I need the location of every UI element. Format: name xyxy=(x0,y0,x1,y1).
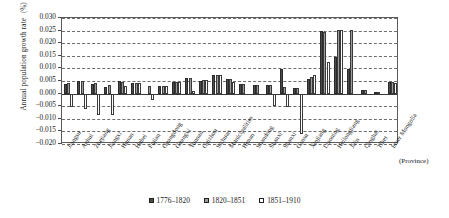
bar xyxy=(178,82,181,94)
bar xyxy=(70,94,73,107)
bar xyxy=(394,83,397,94)
bar-group xyxy=(62,18,75,142)
bar xyxy=(205,80,208,93)
plot-area xyxy=(61,17,398,143)
bar xyxy=(97,94,100,115)
y-tick-label: 0.005 xyxy=(16,76,56,83)
bar-group xyxy=(291,18,304,142)
y-tick-label: 0.025 xyxy=(16,26,56,33)
bar-group xyxy=(75,18,88,142)
bar-group xyxy=(143,18,156,142)
gridline xyxy=(62,144,397,145)
bar xyxy=(273,94,276,106)
bar xyxy=(148,86,151,94)
bar-group xyxy=(183,18,196,142)
bar-group xyxy=(116,18,129,142)
bar-group xyxy=(264,18,277,142)
legend-swatch-icon xyxy=(259,198,264,203)
bar xyxy=(192,91,195,94)
bar xyxy=(300,94,303,135)
legend-swatch-icon xyxy=(149,198,154,203)
bar-group xyxy=(386,18,399,142)
bar-group xyxy=(237,18,250,142)
bar xyxy=(242,84,245,93)
bar-group xyxy=(89,18,102,142)
legend-label: 1776–1820 xyxy=(157,196,190,205)
bar-group xyxy=(129,18,142,142)
bar xyxy=(286,94,289,108)
y-tick-label: 0.030 xyxy=(16,13,56,20)
bar xyxy=(81,81,84,94)
y-tick-label: −0.010 xyxy=(16,114,56,121)
bar xyxy=(138,83,141,94)
chart-legend: 1776–18201820–18511851–1910 xyxy=(0,196,449,205)
bar xyxy=(67,83,70,94)
bar-group xyxy=(170,18,183,142)
bar-groups xyxy=(62,18,397,142)
x-axis-note: (Province) xyxy=(399,157,429,165)
bar xyxy=(84,94,87,110)
y-tick-label: −0.015 xyxy=(16,127,56,134)
bar-group xyxy=(251,18,264,142)
bar-group xyxy=(197,18,210,142)
bar xyxy=(124,86,127,94)
y-tick-label: 0.015 xyxy=(16,51,56,58)
y-tick-label: 0.010 xyxy=(16,64,56,71)
bar-group xyxy=(359,18,372,142)
legend-item: 1820–1851 xyxy=(204,196,245,205)
legend-item: 1776–1820 xyxy=(149,196,190,205)
bar xyxy=(313,75,316,94)
legend-label: 1851–1910 xyxy=(267,196,300,205)
bar xyxy=(151,94,154,100)
bar xyxy=(108,85,111,93)
y-tick-label: −0.005 xyxy=(16,102,56,109)
population-growth-chart: Annual population growth rate（%） 0.0300.… xyxy=(0,0,449,218)
legend-swatch-icon xyxy=(204,198,209,203)
bar-group xyxy=(278,18,291,142)
legend-item: 1851–1910 xyxy=(259,196,300,205)
bar-group xyxy=(156,18,169,142)
bar-group xyxy=(210,18,223,142)
legend-label: 1820–1851 xyxy=(212,196,245,205)
bar-group xyxy=(332,18,345,142)
bar-group xyxy=(345,18,358,142)
bar xyxy=(256,85,259,93)
bar xyxy=(340,30,343,94)
y-tick-label: 0.020 xyxy=(16,39,56,46)
bar xyxy=(377,92,380,94)
y-tick-label: −0.020 xyxy=(16,139,56,146)
bar xyxy=(269,85,272,94)
bar-group xyxy=(102,18,115,142)
bar-group xyxy=(318,18,331,142)
bar-group xyxy=(305,18,318,142)
bar xyxy=(327,62,330,93)
y-tick-label: 0.000 xyxy=(16,89,56,96)
bar xyxy=(111,94,114,116)
bar xyxy=(232,82,235,94)
bar xyxy=(350,30,353,94)
bar-group xyxy=(372,18,385,142)
bar xyxy=(219,75,222,93)
bar-group xyxy=(224,18,237,142)
bar xyxy=(165,86,168,94)
bar xyxy=(94,83,97,94)
bar xyxy=(364,90,367,94)
